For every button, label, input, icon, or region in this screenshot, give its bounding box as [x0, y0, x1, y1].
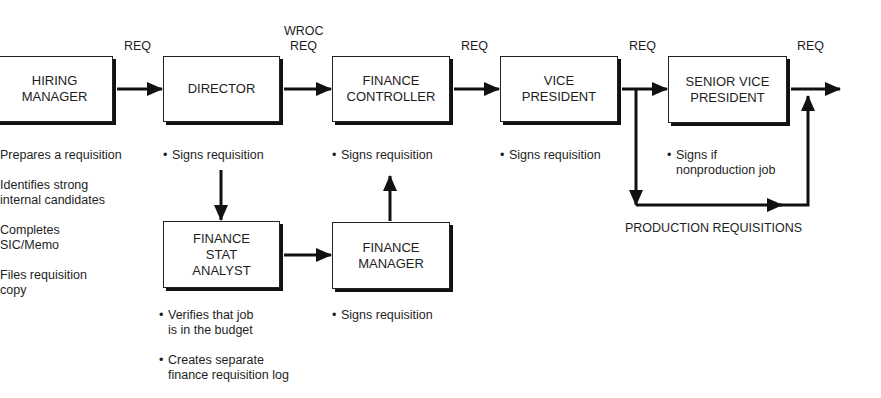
box-label: FINANCE	[193, 231, 250, 247]
box-label: DIRECTOR	[188, 81, 256, 97]
box-label: STAT	[206, 247, 237, 263]
box-finance-manager: FINANCE MANAGER	[332, 222, 450, 289]
box-label: SENIOR VICE	[686, 74, 770, 90]
notes-hiring-manager: •Prepares a requisition •Identifies stro…	[0, 148, 122, 313]
edge-label-req: REQ	[290, 39, 317, 54]
box-label: PRESIDENT	[522, 89, 596, 105]
box-finance-stat-analyst: FINANCE STAT ANALYST	[163, 221, 280, 288]
box-label: MANAGER	[358, 256, 424, 272]
edge-label-req: REQ	[797, 39, 824, 54]
notes-finance-manager: •Signs requisition	[332, 308, 433, 338]
edge-label-req: REQ	[124, 39, 151, 54]
box-label: MANAGER	[22, 89, 88, 105]
box-label: HIRING	[32, 73, 78, 89]
box-senior-vice-president: SENIOR VICE PRESIDENT	[668, 56, 787, 123]
box-label: VICE	[544, 73, 574, 89]
box-vice-president: VICE PRESIDENT	[500, 56, 618, 122]
note-item: •Signs requisition	[332, 148, 433, 163]
note-item: •Creates separate finance requisition lo…	[159, 353, 289, 383]
box-label: FINANCE	[362, 240, 419, 256]
box-director: DIRECTOR	[163, 56, 280, 122]
box-label: ANALYST	[192, 263, 250, 279]
note-item: •Signs requisition	[163, 148, 264, 163]
notes-vice-president: •Signs requisition	[500, 148, 601, 178]
note-item: •Prepares a requisition	[0, 148, 122, 163]
box-finance-controller: FINANCE CONTROLLER	[332, 56, 450, 122]
note-item: •Signs requisition	[332, 308, 433, 323]
note-item: •Identifies strong internal candidates	[0, 178, 122, 208]
box-hiring-manager: HIRING MANAGER	[0, 56, 113, 122]
note-item: •Files requisition copy	[0, 268, 122, 298]
notes-senior-vice-president: •Signs if nonproduction job	[667, 148, 775, 193]
box-label: PRESIDENT	[690, 90, 764, 106]
box-label: FINANCE	[362, 73, 419, 89]
note-item: •Completes SIC/Memo	[0, 223, 122, 253]
edge-label-req: REQ	[461, 39, 488, 54]
box-label: CONTROLLER	[347, 89, 436, 105]
note-item: •Verifies that job is in the budget	[159, 308, 289, 338]
notes-finance-controller: •Signs requisition	[332, 148, 433, 178]
notes-finance-stat-analyst: •Verifies that job is in the budget •Cre…	[159, 308, 289, 398]
edge-label-wroc: WROC	[284, 24, 324, 39]
note-item: •Signs requisition	[500, 148, 601, 163]
edge-label-production-requisitions: PRODUCTION REQUISITIONS	[625, 221, 802, 236]
note-item: •Signs if nonproduction job	[667, 148, 775, 178]
notes-director: •Signs requisition	[163, 148, 264, 178]
edge-label-req: REQ	[629, 39, 656, 54]
